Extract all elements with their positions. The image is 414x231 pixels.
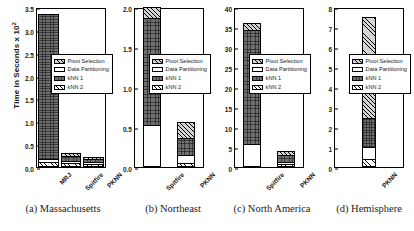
legend-label: Pivot Selection bbox=[166, 57, 203, 66]
legend-label: kNN 2 bbox=[266, 83, 282, 92]
legend: Pivot SelectionData PartitioningkNN 1kNN… bbox=[51, 54, 113, 95]
y-tick-label: 35 bbox=[225, 26, 235, 33]
y-tick-label: 3 bbox=[328, 106, 335, 113]
legend-swatch-pivot bbox=[152, 59, 163, 64]
y-tick-mark bbox=[135, 49, 138, 50]
bar-segment-data-partitioning bbox=[178, 156, 194, 164]
y-tick-label: 2.0 bbox=[123, 6, 135, 13]
bar-segment-pivot-selection bbox=[244, 24, 260, 31]
y-tick-label: 20 bbox=[225, 86, 235, 93]
plot-area: 0510152025303540Pivot SelectionData Part… bbox=[234, 8, 304, 168]
panel-a: MRJSpitfirePKNN0.00.51.01.52.02.53.03.5P… bbox=[14, 8, 106, 168]
legend-item: kNN 1 bbox=[252, 74, 307, 83]
legend-label: kNN 1 bbox=[266, 74, 282, 83]
y-tick-mark bbox=[135, 129, 138, 130]
y-tick-mark bbox=[135, 89, 138, 90]
y-tick-label: 3.5 bbox=[25, 6, 37, 13]
bar-segment-pivot-selection bbox=[178, 123, 194, 139]
y-tick-label: 0.0 bbox=[25, 166, 37, 173]
legend-item: kNN 2 bbox=[252, 83, 307, 92]
y-tick-mark bbox=[235, 29, 238, 30]
y-tick-label: 5 bbox=[328, 66, 335, 73]
legend-label: Data Partitioning bbox=[68, 65, 109, 74]
legend-item: Data Partitioning bbox=[252, 65, 307, 74]
y-tick-mark bbox=[235, 169, 238, 170]
y-tick-mark bbox=[235, 49, 238, 50]
panel-row: MRJSpitfirePKNN0.00.51.01.52.02.53.03.5P… bbox=[0, 0, 414, 231]
legend-label: Data Partitioning bbox=[366, 65, 407, 74]
bar-segment-knn-2 bbox=[62, 164, 80, 166]
legend-item: Pivot Selection bbox=[152, 57, 207, 66]
y-tick-mark bbox=[37, 9, 40, 10]
y-tick-label: 0.0 bbox=[123, 166, 135, 173]
legend-item: kNN 2 bbox=[352, 83, 407, 92]
legend-swatch-part bbox=[352, 67, 363, 72]
legend-swatch-knn2 bbox=[152, 85, 163, 90]
y-tick-label: 2 bbox=[328, 126, 335, 133]
legend-item: kNN 1 bbox=[54, 74, 109, 83]
bar-pknn bbox=[177, 122, 195, 167]
legend-swatch-knn1 bbox=[352, 76, 363, 81]
legend-swatch-pivot bbox=[54, 59, 65, 64]
caption-d: (d) Hemisphere bbox=[324, 203, 414, 214]
panel-d: PKNN012345678Pivot SelectionData Partiti… bbox=[312, 8, 404, 168]
legend-label: kNN 2 bbox=[68, 83, 84, 92]
y-tick-label: 15 bbox=[225, 106, 235, 113]
legend-label: kNN 1 bbox=[366, 74, 382, 83]
x-tick-label: Spitfire bbox=[164, 171, 185, 192]
y-tick-label: 1 bbox=[328, 146, 335, 153]
legend-label: Pivot Selection bbox=[366, 57, 403, 66]
y-tick-label: 0.5 bbox=[25, 143, 37, 150]
bar-pknn bbox=[83, 157, 103, 168]
y-tick-mark bbox=[335, 89, 338, 90]
legend-swatch-pivot bbox=[252, 59, 263, 64]
y-tick-mark bbox=[235, 129, 238, 130]
legend-swatch-part bbox=[252, 67, 263, 72]
bar-segment-knn-2 bbox=[84, 165, 102, 166]
legend-label: Pivot Selection bbox=[266, 57, 303, 66]
plot-area: 012345678Pivot SelectionData Partitionin… bbox=[334, 8, 404, 168]
legend-swatch-knn1 bbox=[54, 76, 65, 81]
y-tick-label: 1.0 bbox=[25, 120, 37, 127]
x-tick-label: Spitfire bbox=[264, 171, 285, 192]
caption-c: (c) North America bbox=[220, 203, 324, 214]
y-tick-label: 1.5 bbox=[25, 97, 37, 104]
legend-swatch-pivot bbox=[352, 59, 363, 64]
y-tick-mark bbox=[37, 169, 40, 170]
legend-swatch-part bbox=[152, 67, 163, 72]
legend-swatch-knn1 bbox=[152, 76, 163, 81]
legend-swatch-knn2 bbox=[352, 85, 363, 90]
legend-label: kNN 2 bbox=[166, 83, 182, 92]
y-tick-label: 1.5 bbox=[123, 46, 135, 53]
plot-area: 0.00.51.01.52.0Pivot SelectionData Parti… bbox=[134, 8, 204, 168]
bar-segment-knn-1 bbox=[278, 156, 294, 163]
legend: Pivot SelectionData PartitioningkNN 1kNN… bbox=[249, 54, 311, 95]
legend-item: kNN 1 bbox=[352, 74, 407, 83]
y-tick-label: 4 bbox=[328, 86, 335, 93]
legend-label: kNN 2 bbox=[366, 83, 382, 92]
bar-segment-data-partitioning bbox=[144, 126, 160, 166]
y-tick-mark bbox=[335, 9, 338, 10]
x-tick-label: PKNN bbox=[198, 171, 216, 189]
y-tick-label: 30 bbox=[225, 46, 235, 53]
legend-item: Data Partitioning bbox=[352, 65, 407, 74]
y-tick-label: 0 bbox=[228, 166, 235, 173]
legend-item: kNN 1 bbox=[152, 74, 207, 83]
legend-swatch-knn1 bbox=[252, 76, 263, 81]
caption-a: (a) Massachusetts bbox=[0, 203, 126, 214]
bar-segment-knn-2 bbox=[178, 164, 194, 166]
bar-spitfire bbox=[61, 153, 81, 167]
y-tick-mark bbox=[335, 109, 338, 110]
y-tick-label: 2.0 bbox=[25, 74, 37, 81]
caption-b: (b) Northeast bbox=[126, 203, 220, 214]
legend-swatch-part bbox=[54, 67, 65, 72]
legend-item: kNN 2 bbox=[152, 83, 207, 92]
legend-label: kNN 1 bbox=[166, 74, 182, 83]
legend-item: Pivot Selection bbox=[252, 57, 307, 66]
bar-segment-data-partitioning bbox=[363, 148, 375, 160]
legend: Pivot SelectionData PartitioningkNN 1kNN… bbox=[149, 54, 211, 95]
y-tick-mark bbox=[335, 169, 338, 170]
y-tick-label: 40 bbox=[225, 6, 235, 13]
y-tick-label: 0 bbox=[328, 166, 335, 173]
y-tick-label: 2.5 bbox=[25, 51, 37, 58]
